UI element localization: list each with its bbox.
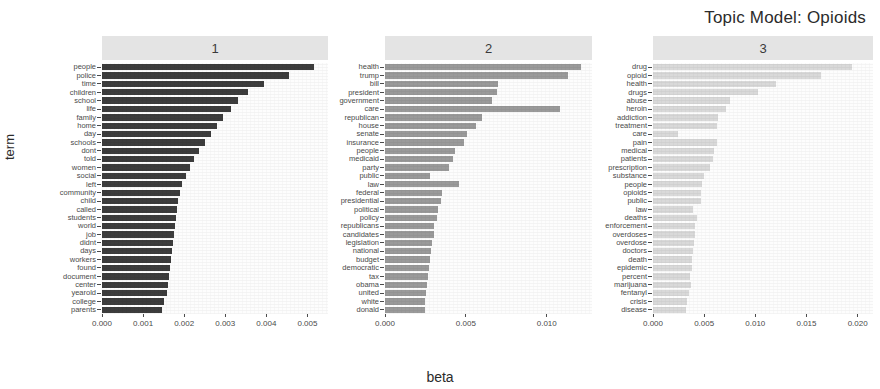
y-tick-mark [380, 201, 384, 202]
bar-row: republicans [385, 222, 592, 230]
bar-row: workers [102, 255, 328, 263]
bar [653, 307, 686, 313]
y-tick-label: law [368, 181, 379, 189]
bar-row: day [102, 130, 328, 138]
bar-row: public [653, 197, 873, 205]
bar [653, 72, 821, 78]
bar-row: presidential [385, 197, 592, 205]
bar-row: bill [385, 80, 592, 88]
y-tick-label: epidemic [617, 264, 647, 272]
bar [385, 131, 467, 137]
bar-row: addiction [653, 113, 873, 121]
y-tick-label: people [356, 147, 379, 155]
y-tick-mark [380, 293, 384, 294]
bar [653, 156, 713, 162]
bar [385, 223, 434, 229]
bar-row: house [385, 122, 592, 130]
bar [102, 89, 248, 95]
y-tick-label: fentanyl [621, 289, 647, 297]
x-tick-label: 0.015 [796, 319, 816, 328]
bar [102, 156, 194, 162]
y-tick-label: percent [622, 273, 647, 281]
bar [102, 148, 199, 154]
bar [102, 198, 178, 204]
bar-row: doctors [653, 247, 873, 255]
y-tick-mark [648, 259, 652, 260]
bar [102, 231, 174, 237]
bar-row: patients [653, 155, 873, 163]
bar [102, 248, 172, 254]
bar-row: didnt [102, 239, 328, 247]
y-tick-mark [648, 192, 652, 193]
y-tick-label: time [82, 80, 96, 88]
x-tick-mark [102, 314, 103, 317]
bar-row: people [102, 63, 328, 71]
x-tick-label: 0.000 [92, 319, 112, 328]
y-tick-mark [380, 175, 384, 176]
x-tick: 0.015 [796, 314, 816, 328]
y-tick-label: social [77, 172, 96, 180]
bar-row: health [385, 63, 592, 71]
y-tick-mark [380, 301, 384, 302]
bar [653, 131, 678, 137]
x-tick-label: 0.004 [256, 319, 276, 328]
bar-row: opioids [653, 189, 873, 197]
y-tick-label: doctors [622, 247, 647, 255]
y-tick-label: didnt [80, 239, 96, 247]
bar [385, 256, 430, 262]
y-tick-mark [97, 125, 101, 126]
y-tick-mark [648, 125, 652, 126]
y-tick-label: abuse [627, 97, 647, 105]
bar-row: overdose [653, 239, 873, 247]
bar-row: care [385, 105, 592, 113]
y-tick-mark [97, 259, 101, 260]
y-tick-mark [97, 92, 101, 93]
bar [653, 273, 690, 279]
y-tick-label: republican [344, 114, 379, 122]
bar-row: federal [385, 189, 592, 197]
y-tick-mark [380, 159, 384, 160]
y-tick-mark [97, 109, 101, 110]
x-tick-mark [546, 314, 547, 317]
bar [385, 181, 459, 187]
bar [102, 256, 171, 262]
y-tick-mark [97, 83, 101, 84]
x-tick-label: 0.002 [174, 319, 194, 328]
y-tick-mark [648, 75, 652, 76]
bar [653, 164, 710, 170]
y-tick-label: law [636, 206, 647, 214]
bar [102, 64, 314, 70]
y-tick-mark [97, 284, 101, 285]
x-tick-label: 0.003 [215, 319, 235, 328]
bar [653, 223, 695, 229]
y-tick-mark [380, 192, 384, 193]
x-tick-mark [385, 314, 386, 317]
y-tick-mark [648, 209, 652, 210]
bar-row: parents [102, 306, 328, 314]
y-tick-mark [648, 301, 652, 302]
y-tick-mark [648, 175, 652, 176]
y-tick-mark [97, 201, 101, 202]
x-tick-label: 0.000 [643, 319, 663, 328]
bar-row: job [102, 230, 328, 238]
bar [102, 290, 167, 296]
bar-row: community [102, 189, 328, 197]
bar-row: party [385, 163, 592, 171]
y-tick-mark [648, 92, 652, 93]
y-tick-label: school [74, 97, 96, 105]
bar-row: home [102, 122, 328, 130]
bar-row: days [102, 247, 328, 255]
y-tick-label: overdose [616, 239, 647, 247]
bar [385, 89, 497, 95]
facet-panel-1: 1 peoplepolicetimechildrenschoollifefami… [60, 36, 328, 336]
y-tick-mark [97, 192, 101, 193]
y-tick-mark [380, 242, 384, 243]
x-tick-mark [184, 314, 185, 317]
y-tick-mark [97, 309, 101, 310]
x-axis-2: 0.0000.0050.010 [385, 314, 592, 336]
y-tick-label: people [73, 63, 96, 71]
bar [385, 106, 560, 112]
y-tick-label: drug [632, 63, 647, 71]
bar [385, 173, 430, 179]
facet-strip-label: 3 [759, 41, 766, 56]
